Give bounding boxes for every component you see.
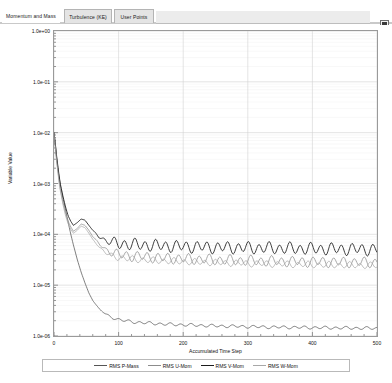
x-tick-label: 100 [114, 339, 122, 347]
legend-swatch-line-icon [94, 365, 107, 366]
legend-item[interactable]: RMS P-Mass [94, 363, 138, 369]
y-tick-label: 1.0e+00 [4, 28, 50, 34]
tab-user-points[interactable]: User Points [114, 9, 154, 23]
chart-legend: RMS P-MassRMS U-MomRMS V-MomRMS W-Mom [42, 359, 350, 372]
legend-item[interactable]: RMS W-Mom [253, 363, 298, 369]
legend-label: RMS W-Mom [268, 363, 298, 369]
y-tick-label: 1.0e-02 [4, 130, 50, 136]
chart-panel: 1.0e+001.0e-011.0e-021.0e-031.0e-041.0e-… [1, 25, 390, 355]
tab-turbulence-ke[interactable]: Turbulence (KE) [64, 9, 112, 23]
tab-bar: Momentum and Mass Turbulence (KE) User P… [0, 9, 392, 24]
y-tick-label: 1.0e-06 [4, 333, 50, 339]
tab-momentum-and-mass[interactable]: Momentum and Mass [2, 9, 60, 23]
x-tick-label: 500 [373, 339, 381, 347]
plot-area[interactable] [53, 30, 378, 337]
legend-swatch-line-icon [201, 365, 214, 366]
x-tick-label: 400 [308, 339, 316, 347]
y-tick-label: 1.0e-05 [4, 282, 50, 288]
legend-label: RMS V-Mom [216, 363, 244, 369]
x-tick-label: 300 [244, 339, 252, 347]
legend-item[interactable]: RMS V-Mom [201, 363, 244, 369]
y-tick-label: 1.0e-04 [4, 231, 50, 237]
y-tick-label: 1.0e-01 [4, 79, 50, 85]
legend-label: RMS U-Mom [163, 363, 192, 369]
residual-monitor-window: Momentum and Mass Turbulence (KE) User P… [0, 0, 392, 383]
tab-bar-filler [156, 11, 370, 24]
legend-item[interactable]: RMS U-Mom [148, 363, 192, 369]
legend-label: RMS P-Mass [109, 363, 138, 369]
x-axis-tick-labels: 0100200300400500 [53, 339, 378, 348]
legend-swatch-line-icon [253, 365, 266, 366]
y-axis-title: Variable Value [7, 138, 13, 198]
x-tick-label: 0 [53, 339, 56, 347]
x-axis-title: Accumulated Time Step [53, 348, 378, 354]
x-tick-label: 200 [179, 339, 187, 347]
residual-plot-svg [54, 31, 377, 336]
legend-swatch-line-icon [148, 365, 161, 366]
